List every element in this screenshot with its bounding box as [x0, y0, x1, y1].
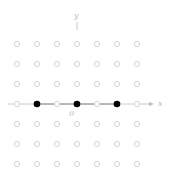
open-lattice-point — [34, 61, 39, 66]
axes — [8, 22, 154, 106]
open-lattice-point — [114, 81, 119, 86]
open-lattice-point — [74, 161, 79, 166]
open-lattice-point — [74, 81, 79, 86]
open-lattice-point — [134, 121, 139, 126]
open-lattice-point — [114, 141, 119, 146]
y-axis-label: y — [74, 12, 79, 20]
lattice-canvas — [0, 0, 171, 180]
open-lattice-point — [94, 141, 99, 146]
open-lattice-point — [54, 121, 59, 126]
open-lattice-point — [34, 41, 39, 46]
open-lattice-point — [14, 161, 19, 166]
open-lattice-point — [94, 161, 99, 166]
open-lattice-point — [14, 121, 19, 126]
open-lattice-point — [134, 141, 139, 146]
open-lattice-point — [74, 121, 79, 126]
open-lattice-point — [94, 101, 99, 106]
open-lattice-point — [134, 101, 139, 106]
open-lattice-point — [74, 141, 79, 146]
filled-lattice-point — [34, 101, 41, 108]
open-lattice-point — [54, 161, 59, 166]
open-lattice-point — [114, 61, 119, 66]
open-lattice-point — [34, 161, 39, 166]
filled-lattice-point — [114, 101, 121, 108]
open-lattice-point — [34, 81, 39, 86]
open-lattice-point — [114, 161, 119, 166]
open-lattice-point — [14, 141, 19, 146]
open-lattice-point — [134, 61, 139, 66]
open-lattice-point — [34, 121, 39, 126]
open-lattice-point — [14, 101, 19, 106]
open-lattice-point — [74, 61, 79, 66]
open-lattice-point — [14, 41, 19, 46]
open-lattice-point — [14, 61, 19, 66]
open-lattice-point — [134, 41, 139, 46]
open-lattice-point — [54, 141, 59, 146]
open-lattice-point — [34, 141, 39, 146]
open-lattice-point — [54, 41, 59, 46]
origin-label: 0 — [69, 110, 74, 118]
open-lattice-point — [94, 61, 99, 66]
x-axis-arrow-icon — [149, 102, 154, 106]
x-axis-label: x — [158, 100, 163, 108]
open-lattice-point — [94, 81, 99, 86]
open-lattice-point — [54, 61, 59, 66]
open-lattice-point — [54, 101, 59, 106]
open-lattice-point — [54, 81, 59, 86]
open-lattice-point — [114, 121, 119, 126]
open-lattice-point — [114, 41, 119, 46]
filled-lattice-point — [74, 101, 81, 108]
open-lattice-point — [134, 161, 139, 166]
open-lattice-point — [14, 81, 19, 86]
open-lattice-point — [94, 121, 99, 126]
open-lattice-point — [74, 41, 79, 46]
lattice-diagram: y x 0 — [0, 0, 171, 180]
open-lattice-point — [134, 81, 139, 86]
open-lattice-point — [94, 41, 99, 46]
